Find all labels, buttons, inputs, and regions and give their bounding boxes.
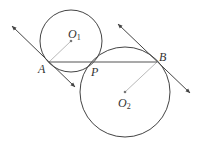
- diagram-svg: [0, 0, 199, 144]
- geometry-diagram: O1 A P B O2: [0, 0, 199, 144]
- radius-o2-b: [125, 62, 157, 92]
- center-dot-o2: [124, 91, 127, 94]
- label-o1: O1: [68, 28, 81, 42]
- label-a: A: [38, 63, 45, 75]
- label-o2: O2: [118, 97, 131, 111]
- radius-o1-a: [49, 41, 71, 62]
- tangent-line-a: [12, 26, 75, 87]
- label-b: B: [159, 51, 166, 63]
- label-p: P: [91, 66, 98, 78]
- tangent-line-b: [118, 24, 190, 93]
